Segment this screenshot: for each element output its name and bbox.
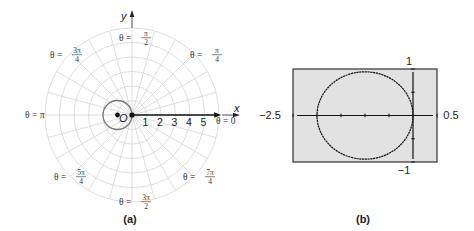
fraction-numerator: 3π (73, 46, 81, 55)
fraction-denominator: 4 (79, 177, 83, 186)
angle-label-prefix: θ = 0 (216, 116, 236, 126)
fraction-numerator: π (215, 46, 219, 55)
radial-tick-label: 2 (157, 116, 163, 128)
angle-label-zero: θ = 0 (216, 116, 236, 126)
radial-tick-label: 3 (172, 116, 178, 128)
fraction-numerator: 7π (206, 168, 214, 177)
angle-label-prefix: θ = (183, 172, 195, 182)
polar-graph-panel: O x y 12345 θ =π2θ =3π4θ =π4θ = πθ = 0θ … (25, 10, 240, 225)
ymax-label: 1 (406, 55, 412, 67)
x-axis-label: x (233, 102, 240, 114)
grid-spoke (132, 72, 207, 116)
fraction-denominator: 4 (75, 55, 79, 64)
angle-label-prefix: θ = (190, 50, 202, 60)
caption-a: (a) (123, 213, 137, 225)
fraction-numerator: 3π (142, 193, 150, 202)
y-axis-arrowhead-icon (130, 10, 135, 17)
calculator-graph-panel: −2.5 0.5 1 −1 (b) (259, 55, 459, 225)
grid-spoke (70, 53, 132, 115)
angle-label-prefix: θ = π (25, 110, 45, 120)
angle-label-pi: θ = π (25, 110, 45, 120)
grid-spoke (57, 72, 132, 116)
angle-label-three-pi-over-4: θ =3π4 (50, 46, 82, 64)
fraction-denominator: 4 (208, 177, 212, 186)
fraction-denominator: 4 (215, 55, 219, 64)
xmin-label: −2.5 (259, 109, 281, 121)
angle-label-prefix: θ = (119, 197, 131, 207)
grid-spoke (89, 40, 133, 115)
fraction-numerator: π (144, 29, 148, 38)
figure: O x y 12345 θ =π2θ =3π4θ =π4θ = πθ = 0θ … (0, 0, 474, 231)
fraction-numerator: 5π (77, 168, 85, 177)
grid-spoke (132, 40, 176, 115)
grid-spoke (89, 115, 133, 190)
fraction-denominator: 2 (144, 202, 148, 211)
ymin-label: −1 (398, 164, 411, 176)
fraction-denominator: 2 (144, 38, 148, 47)
pole-point (129, 112, 134, 117)
grid-spoke (132, 53, 194, 115)
y-axis-label: y (120, 10, 128, 22)
origin-label: O (119, 112, 128, 124)
angle-label-prefix: θ = (119, 33, 131, 43)
angle-label-pi-over-4: θ =π4 (190, 46, 222, 64)
angle-label-pi-over-2: θ =π2 (119, 29, 151, 47)
radial-tick-label: 4 (186, 116, 192, 128)
grid-spoke (132, 115, 176, 190)
angle-label-five-pi-over-4: θ =5π4 (54, 168, 86, 186)
radial-tick-label: 1 (143, 116, 149, 128)
xmax-label: 0.5 (443, 109, 458, 121)
angle-label-prefix: θ = (50, 50, 62, 60)
angle-label-prefix: θ = (54, 172, 66, 182)
radial-tick-label: 5 (201, 116, 207, 128)
caption-b: (b) (356, 213, 370, 225)
